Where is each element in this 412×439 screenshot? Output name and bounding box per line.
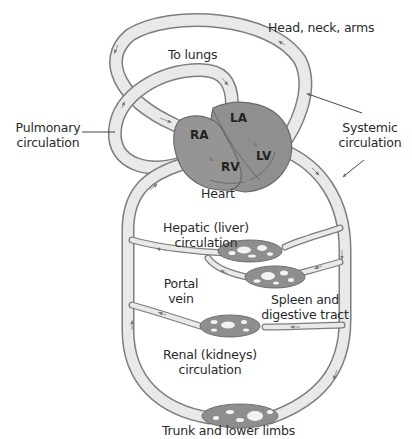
label-portal-line2: vein	[156, 291, 206, 306]
label-pulmonary-line1: Pulmonary	[14, 120, 82, 135]
systemic-pointer-up	[308, 94, 362, 113]
label-hepatic-circulation: Hepatic (liver) circulation	[150, 220, 262, 250]
label-hepatic-line1: Hepatic (liver)	[150, 220, 262, 235]
label-systemic-line1: Systemic	[330, 120, 410, 135]
label-portal-vein: Portal vein	[156, 276, 206, 306]
label-pulmonary-circulation: Pulmonary circulation	[14, 120, 82, 150]
label-renal-line2: circulation	[150, 362, 270, 377]
label-heart: Heart	[201, 186, 235, 201]
label-lv: LV	[256, 149, 271, 163]
systemic-pointer-down	[344, 160, 364, 176]
label-trunk-lower-limbs: Trunk and lower limbs	[162, 423, 295, 438]
label-systemic-circulation: Systemic circulation	[330, 120, 410, 150]
spleen-digestive-capillary-bed	[245, 266, 305, 288]
label-to-lungs: To lungs	[168, 47, 217, 62]
label-ra: RA	[190, 128, 209, 142]
label-renal-line1: Renal (kidneys)	[150, 347, 270, 362]
label-spleen-line2: digestive tract	[250, 307, 360, 322]
label-rv: RV	[221, 160, 240, 174]
label-hepatic-line2: circulation	[150, 235, 262, 250]
label-systemic-line2: circulation	[330, 135, 410, 150]
label-la: LA	[230, 111, 247, 125]
label-spleen-line1: Spleen and	[250, 292, 360, 307]
label-portal-line1: Portal	[156, 276, 206, 291]
label-renal-circulation: Renal (kidneys) circulation	[150, 347, 270, 377]
label-spleen-digestive: Spleen and digestive tract	[250, 292, 360, 322]
label-head-neck-arms: Head, neck, arms	[268, 20, 374, 35]
label-pulmonary-line2: circulation	[14, 135, 82, 150]
